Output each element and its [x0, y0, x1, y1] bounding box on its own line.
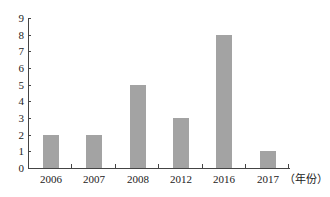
x-tick-label: 2006	[31, 173, 71, 185]
x-axis	[28, 168, 290, 169]
y-tick-mark	[28, 101, 31, 102]
y-tick-mark	[28, 85, 31, 86]
y-tick-label: 7	[12, 45, 24, 57]
y-tick-label: 8	[12, 29, 24, 41]
x-tick-mark	[245, 164, 246, 168]
y-tick-mark	[28, 68, 31, 69]
y-tick-mark	[28, 151, 31, 152]
y-tick-mark	[28, 18, 31, 19]
bar-chart: 0123456789 200620072008201220162017 （年份）	[0, 0, 330, 197]
x-tick-mark	[71, 164, 72, 168]
bar-2008	[130, 85, 146, 168]
y-tick-label: 5	[12, 79, 24, 91]
x-tick-mark	[158, 164, 159, 168]
x-tick-label: 2017	[248, 173, 288, 185]
y-tick-label: 9	[12, 12, 24, 24]
y-tick-mark	[28, 35, 31, 36]
y-tick-mark	[28, 51, 31, 52]
y-tick-mark	[28, 118, 31, 119]
bar-2007	[86, 135, 102, 168]
x-tick-label: 2012	[161, 173, 201, 185]
y-tick-label: 3	[12, 112, 24, 124]
y-tick-mark	[28, 135, 31, 136]
x-tick-label: 2007	[74, 173, 114, 185]
y-tick-label: 2	[12, 129, 24, 141]
bar-2012	[173, 118, 189, 168]
y-tick-label: 0	[12, 162, 24, 174]
x-tick-label: 2016	[204, 173, 244, 185]
x-tick-mark	[288, 164, 289, 168]
y-tick-label: 4	[12, 95, 24, 107]
y-axis	[28, 18, 29, 169]
bar-2017	[260, 151, 276, 168]
y-tick-label: 1	[12, 145, 24, 157]
x-axis-unit-label: （年份）	[284, 173, 328, 185]
bar-2006	[43, 135, 59, 168]
bar-2016	[216, 35, 232, 168]
x-tick-mark	[202, 164, 203, 168]
y-tick-label: 6	[12, 62, 24, 74]
y-tick-mark	[28, 168, 31, 169]
x-tick-mark	[115, 164, 116, 168]
x-tick-label: 2008	[118, 173, 158, 185]
